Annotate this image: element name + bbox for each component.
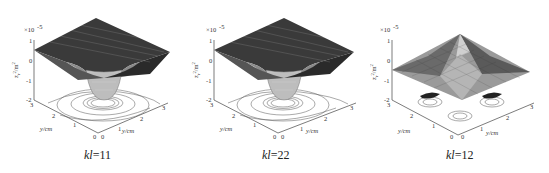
y-tick: 3 (387, 101, 390, 108)
y-tick: 2 (232, 112, 235, 119)
z-tick: -1 (384, 77, 389, 84)
x-tick: 0 (461, 133, 464, 140)
y-tick: 1 (253, 121, 256, 128)
y-tick: 0 (93, 133, 96, 140)
y-tick: 1 (432, 122, 435, 129)
z-tick: 0 (209, 57, 212, 64)
y-tick: 2 (410, 112, 413, 119)
z-multiplier: ×10 (380, 26, 390, 33)
z-tick: 1 (387, 37, 390, 44)
x-tick: 1 (118, 125, 121, 132)
y-tick: 2 (52, 112, 55, 119)
z-exponent: -5 (393, 23, 398, 30)
z-multiplier: ×10 (206, 26, 216, 33)
x-tick: 0 (281, 133, 284, 140)
z-tick: 1 (29, 37, 32, 44)
surface-plot-kl11: ×10 -5 1 0 -1 -2 zr2/m2 3 2 1 0 0 1 2 3 … (0, 0, 180, 150)
caption-kl12: kl=12 (446, 148, 473, 163)
x-tick: 1 (480, 125, 483, 132)
z-tick: 0 (29, 57, 32, 64)
y-axis-label: y/cm (397, 127, 411, 134)
x-tick: 2 (324, 115, 327, 122)
z-multiplier: ×10 (24, 26, 34, 33)
chart-panel-kl22: ×10 -5 1 0 -1 -2 zr2/m2 3 2 1 0 0 1 2 3 … (180, 0, 370, 173)
x-tick: 1 (300, 125, 303, 132)
y-tick: 3 (210, 101, 213, 108)
z-axis-label: zr2/m2 (370, 64, 379, 80)
base-contours (418, 97, 504, 121)
z-exponent: -5 (219, 23, 224, 30)
surface-mesh (214, 18, 354, 100)
x-tick: 2 (140, 115, 143, 122)
x-tick: 3 (162, 104, 165, 111)
surface-mesh (34, 18, 170, 100)
y-tick: 0 (450, 133, 453, 140)
x-tick: 3 (530, 103, 533, 110)
z-exponent: -5 (37, 23, 42, 30)
x-axis-label: y/cm (485, 129, 499, 136)
x-tick: 2 (506, 114, 509, 121)
z-axis-label: zr2/m2 (191, 62, 201, 78)
x-tick: 3 (350, 104, 353, 111)
z-axis-label: zr2/m2 (11, 62, 21, 78)
z-tick: 0 (387, 57, 390, 64)
y-axis-label: y/cm (39, 125, 53, 132)
x-axis-label: y/cm (121, 127, 135, 134)
surface-mesh (392, 34, 530, 100)
y-axis-label: y/cm (219, 125, 233, 132)
x-axis-label: y/cm (305, 127, 319, 134)
x-tick: 0 (101, 133, 104, 140)
y-tick: 1 (73, 121, 76, 128)
z-tick: 1 (209, 37, 212, 44)
surface-plot-kl22: ×10 -5 1 0 -1 -2 zr2/m2 3 2 1 0 0 1 2 3 … (180, 0, 370, 150)
caption-kl22: kl=22 (262, 148, 289, 163)
y-tick: 0 (273, 133, 276, 140)
surface-plot-kl12: ×10 -5 1 0 -1 -2 zr2/m2 3 2 1 0 0 1 2 3 … (370, 0, 549, 150)
chart-panel-kl12: ×10 -5 1 0 -1 -2 zr2/m2 3 2 1 0 0 1 2 3 … (370, 0, 549, 173)
y-tick: 3 (30, 101, 33, 108)
z-tick: -1 (26, 77, 31, 84)
caption-kl11: kl=11 (84, 148, 111, 163)
z-tick: -1 (206, 77, 211, 84)
chart-panel-kl11: ×10 -5 1 0 -1 -2 zr2/m2 3 2 1 0 0 1 2 3 … (0, 0, 180, 173)
